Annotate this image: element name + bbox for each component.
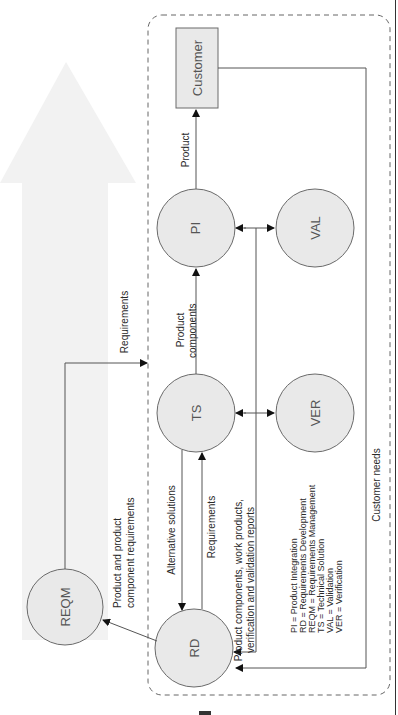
feedback-label-1: Product components, work products, <box>233 499 244 661</box>
rd-to-reqm-arrow <box>103 620 157 641</box>
ts-label: TS <box>189 404 204 421</box>
diagram-canvas: Customer Product PI VAL TS VER REQM RD P… <box>0 0 398 715</box>
customer-label: Customer <box>190 39 205 96</box>
rd-label: RD <box>187 639 202 658</box>
product-edge-label: Product <box>180 133 191 168</box>
feedback-label-2: verification and validation reports <box>245 507 256 653</box>
customer-box[interactable]: Customer <box>176 28 218 108</box>
ver-node[interactable]: VER <box>276 374 354 452</box>
ver-label: VER <box>308 400 323 427</box>
reqm-requirements-label: Requirements <box>119 291 130 353</box>
rd-to-ts-requirements-label: Requirements <box>206 496 217 558</box>
product-components-label-1: Product <box>175 313 186 348</box>
rd-to-reqm-label-2: component requirements <box>125 497 136 608</box>
page-edge-line <box>395 0 396 715</box>
reqm-label: REQM <box>58 588 73 627</box>
ts-node[interactable]: TS <box>157 374 235 452</box>
process-area-boundary <box>148 15 390 695</box>
reqm-node[interactable]: REQM <box>27 569 103 645</box>
rd-to-reqm-label-1: Product and product <box>112 518 123 608</box>
product-components-label-2: components <box>187 304 198 358</box>
rd-node[interactable]: RD <box>155 609 233 687</box>
val-node[interactable]: VAL <box>276 189 354 267</box>
legend-item: VER = Verification <box>334 560 344 633</box>
pi-node[interactable]: PI <box>157 189 235 267</box>
alternative-solutions-label: Alternative solutions <box>166 485 177 575</box>
customer-needs-label: Customer needs <box>371 448 382 521</box>
legend: PI = Product Integration RD = Requiremen… <box>289 484 344 633</box>
page-number-fragment <box>199 711 211 715</box>
pi-label: PI <box>188 222 203 234</box>
val-label: VAL <box>308 216 323 240</box>
